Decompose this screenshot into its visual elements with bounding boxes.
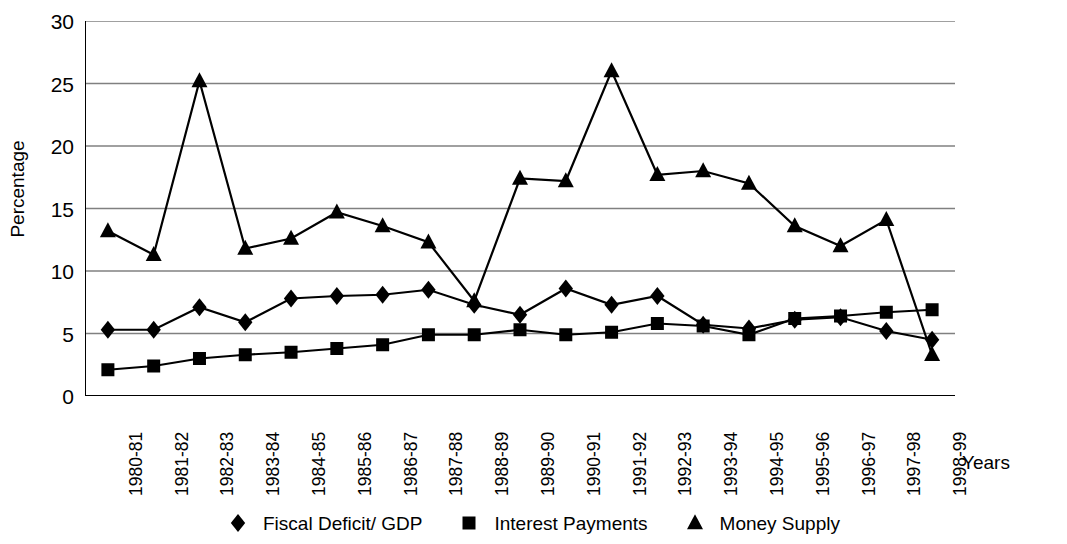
diamond-marker-icon (604, 296, 618, 314)
x-axis-tick-label: 1983-84 (265, 400, 283, 496)
square-marker-icon (651, 317, 664, 330)
diamond-marker-icon (421, 281, 435, 299)
x-axis-tick-label: 1982-83 (219, 400, 237, 496)
legend-item[interactable]: Money Supply (684, 512, 840, 534)
square-marker-icon (468, 328, 481, 341)
triangle-marker-icon (283, 230, 299, 245)
diamond-marker-icon (227, 512, 249, 534)
square-marker-icon (193, 352, 206, 365)
square-marker-icon (101, 363, 114, 376)
square-marker-icon (463, 517, 476, 530)
x-axis-tick-label: 1981-82 (174, 400, 192, 496)
square-marker-icon (834, 310, 847, 323)
x-axis-tick-label: 1998-99 (952, 400, 970, 496)
legend-item-label: Money Supply (720, 514, 840, 533)
diamond-marker-icon (513, 306, 527, 324)
diamond-marker-icon (375, 286, 389, 304)
square-marker-icon (376, 338, 389, 351)
square-marker-icon (422, 328, 435, 341)
y-axis-tick-labels: 051015202530 (22, 21, 74, 396)
diamond-marker-icon (101, 321, 115, 339)
y-axis-tick-label: 20 (32, 136, 74, 157)
square-marker-icon (514, 323, 527, 336)
chart-canvas (85, 21, 955, 396)
triangle-marker-icon (695, 162, 711, 177)
x-axis-tick-label: 1996-97 (861, 400, 879, 496)
triangle-marker-icon (100, 222, 116, 237)
square-marker-icon (880, 306, 893, 319)
diamond-marker-icon (231, 514, 245, 532)
diamond-marker-icon (146, 321, 160, 339)
square-marker-icon (330, 342, 343, 355)
x-axis-tick-labels: 1980-811981-821982-831983-841984-851985-… (85, 400, 955, 500)
square-marker-icon (742, 328, 755, 341)
y-axis-tick-label: 0 (32, 386, 74, 407)
x-axis-tick-label: 1995-96 (815, 400, 833, 496)
x-axis-tick-label: 1986-87 (403, 400, 421, 496)
square-marker-icon (559, 328, 572, 341)
y-axis-tick-label: 30 (32, 11, 74, 32)
square-marker-icon (605, 326, 618, 339)
chart-figure: Percentage 051015202530 1980-811981-8219… (0, 0, 1067, 544)
x-axis-title: Years (962, 452, 1010, 474)
diamond-marker-icon (238, 313, 252, 331)
triangle-marker-icon (878, 211, 894, 226)
triangle-marker-icon (687, 514, 703, 529)
square-marker-icon (458, 512, 480, 534)
x-axis-tick-label: 1989-90 (540, 400, 558, 496)
diamond-marker-icon (284, 290, 298, 308)
triangle-marker-icon (924, 346, 940, 361)
y-axis-tick-label: 10 (32, 261, 74, 282)
x-axis-tick-label: 1991-92 (632, 400, 650, 496)
square-marker-icon (239, 348, 252, 361)
square-marker-icon (788, 312, 801, 325)
chart-legend: Fiscal Deficit/ GDPInterest PaymentsMone… (0, 512, 1067, 534)
x-axis-tick-label: 1992-93 (677, 400, 695, 496)
legend-item-label: Interest Payments (494, 514, 647, 533)
x-axis-tick-label: 1980-81 (128, 400, 146, 496)
x-axis-tick-label: 1990-91 (586, 400, 604, 496)
triangle-marker-icon (684, 512, 706, 534)
square-marker-icon (697, 320, 710, 333)
x-axis-tick-label: 1984-85 (311, 400, 329, 496)
triangle-marker-icon (604, 62, 620, 77)
diamond-marker-icon (879, 322, 893, 340)
triangle-marker-icon (833, 237, 849, 252)
triangle-marker-icon (512, 170, 528, 185)
y-axis-tick-label: 5 (32, 323, 74, 344)
square-marker-icon (926, 303, 939, 316)
x-axis-tick-label: 1988-89 (494, 400, 512, 496)
x-axis-tick-label: 1985-86 (357, 400, 375, 496)
legend-item[interactable]: Fiscal Deficit/ GDP (227, 512, 422, 534)
diamond-marker-icon (650, 287, 664, 305)
x-axis-tick-label: 1994-95 (769, 400, 787, 496)
x-axis-tick-label: 1987-88 (448, 400, 466, 496)
y-axis-tick-label: 15 (32, 198, 74, 219)
triangle-marker-icon (191, 72, 207, 87)
square-marker-icon (147, 360, 160, 373)
legend-item[interactable]: Interest Payments (458, 512, 647, 534)
legend-item-label: Fiscal Deficit/ GDP (263, 514, 422, 533)
plot-area (85, 21, 955, 396)
series-1 (101, 280, 940, 349)
y-axis-tick-label: 25 (32, 73, 74, 94)
triangle-marker-icon (329, 204, 345, 219)
diamond-marker-icon (330, 287, 344, 305)
x-axis-tick-label: 1997-98 (906, 400, 924, 496)
diamond-marker-icon (192, 298, 206, 316)
square-marker-icon (285, 346, 298, 359)
diamond-marker-icon (559, 280, 573, 298)
x-axis-tick-label: 1993-94 (723, 400, 741, 496)
triangle-marker-icon (146, 246, 162, 261)
